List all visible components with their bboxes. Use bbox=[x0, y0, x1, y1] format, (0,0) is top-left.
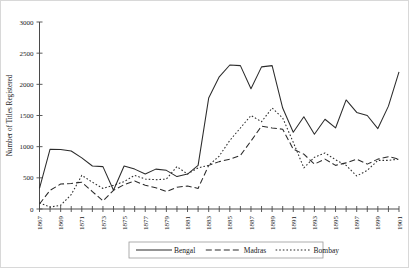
x-tick-label: 1875 bbox=[121, 216, 129, 231]
chart-legend: BengalMadrasBombay bbox=[129, 242, 339, 258]
y-tick-label: 1000 bbox=[20, 143, 35, 151]
legend-label-madras: Madras bbox=[244, 246, 267, 255]
x-tick-label: 1893 bbox=[311, 216, 319, 231]
x-axis: 1867186918711873187518771879188118831885… bbox=[36, 206, 404, 230]
x-tick-label: 1867 bbox=[36, 216, 44, 231]
x-tick-label: 1887 bbox=[248, 216, 256, 231]
y-axis-label: Number of Titles Registered bbox=[6, 74, 14, 156]
legend-label-bengal: Bengal bbox=[174, 246, 195, 255]
x-tick-label: 1879 bbox=[163, 216, 171, 231]
x-tick-label: 1869 bbox=[57, 216, 65, 231]
y-tick-label: 500 bbox=[23, 174, 34, 182]
x-tick-label: 1885 bbox=[226, 216, 234, 231]
y-tick-label: 1500 bbox=[20, 112, 35, 120]
x-tick-label: 1883 bbox=[205, 216, 213, 231]
x-tick-label: 1897 bbox=[353, 216, 361, 231]
x-tick-label: 1873 bbox=[100, 216, 108, 231]
series-lines bbox=[40, 65, 400, 207]
x-tick-label: 1877 bbox=[142, 216, 150, 231]
x-tick-label: 1901 bbox=[396, 216, 404, 231]
chart-figure: 050010001500200025003000 186718691871187… bbox=[0, 0, 409, 268]
y-tick-label: 0 bbox=[30, 206, 34, 214]
y-tick-label: 3000 bbox=[20, 19, 35, 27]
y-tick-label: 2000 bbox=[20, 81, 35, 89]
series-line-bengal bbox=[40, 65, 400, 190]
y-axis-title: Number of Titles Registered bbox=[6, 74, 14, 156]
legend-label-bombay: Bombay bbox=[314, 246, 340, 255]
x-tick-label: 1895 bbox=[332, 216, 340, 231]
x-tick-label: 1889 bbox=[269, 216, 277, 231]
x-tick-label: 1899 bbox=[374, 216, 382, 231]
x-tick-label: 1891 bbox=[290, 216, 298, 231]
x-tick-label: 1881 bbox=[184, 216, 192, 231]
y-tick-label: 2500 bbox=[20, 50, 35, 58]
y-axis: 050010001500200025003000 bbox=[20, 19, 43, 214]
x-tick-label: 1871 bbox=[78, 216, 86, 231]
series-line-madras bbox=[40, 126, 400, 204]
line-chart: 050010001500200025003000 186718691871187… bbox=[1, 1, 409, 268]
